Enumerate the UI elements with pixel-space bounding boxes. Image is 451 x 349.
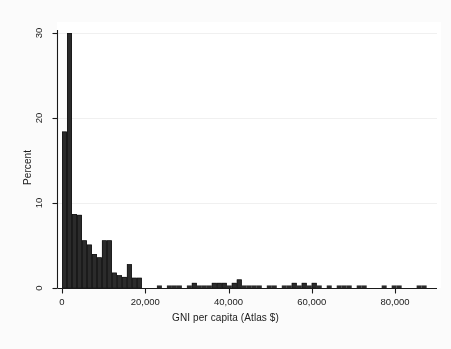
y-tick-label: 20	[32, 105, 46, 131]
x-tick-label: 80,000	[355, 296, 435, 307]
y-axis-title: Percent	[22, 150, 33, 185]
y-tick-label: 30	[32, 20, 46, 46]
x-tick-label: 0	[22, 296, 102, 307]
x-tick-label: 40,000	[189, 296, 269, 307]
x-axis-title: GNI per capita (Atlas $)	[0, 312, 451, 323]
x-tick-label: 20,000	[105, 296, 185, 307]
y-tick-label: 10	[32, 190, 46, 216]
x-tick-label: 60,000	[272, 296, 352, 307]
histogram-figure: Percent GNI per capita (Atlas $) 0102030…	[0, 0, 451, 349]
